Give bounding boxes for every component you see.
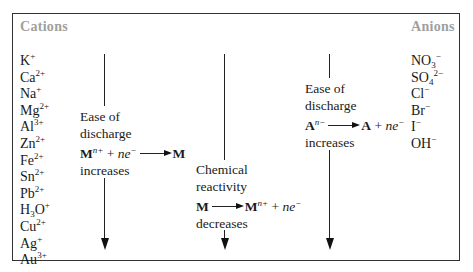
label-line: decreases: [196, 215, 301, 232]
label-line: increases: [80, 162, 185, 179]
label-line: reactivity: [196, 178, 301, 195]
eq-plus: +: [268, 199, 282, 214]
anion-discharge-label: Ease of discharge An−A + ne− increases: [305, 80, 404, 151]
label-line: Ease of: [305, 80, 404, 97]
label-line: discharge: [80, 125, 185, 142]
label-line: Ease of: [80, 108, 185, 125]
eq-species: M: [196, 199, 209, 214]
arrow-1-top-line: [104, 54, 105, 106]
reaction-arrow-icon: [140, 153, 170, 154]
eq-species: A: [361, 118, 371, 133]
reactivity-equation: MMn+ + ne−: [196, 195, 301, 215]
eq-species: M: [173, 146, 186, 161]
eq-charge: −: [398, 117, 404, 127]
reaction-arrow-icon: [328, 125, 358, 126]
cation-discharge-equation: Mn+ + ne−M: [80, 142, 185, 162]
arrow-down-icon: [326, 238, 334, 250]
eq-charge: −: [130, 145, 136, 155]
reaction-arrow-icon: [212, 206, 242, 207]
eq-charge: n−: [315, 117, 326, 127]
arrow-down-icon: [221, 238, 229, 250]
eq-plus: +: [371, 118, 385, 133]
label-line: discharge: [305, 97, 404, 114]
chemical-reactivity-label: Chemical reactivity MMn+ + ne− decreases: [196, 161, 301, 232]
eq-electrons: ne: [385, 118, 398, 133]
label-line: Chemical: [196, 161, 301, 178]
eq-electrons: ne: [118, 146, 131, 161]
arrow-3-top-line: [329, 54, 330, 78]
arrow-1-bottom-line: [104, 178, 105, 242]
eq-plus: +: [103, 146, 117, 161]
cations-header: Cations: [20, 19, 68, 35]
cation-ion: Au3+: [20, 247, 47, 268]
arrow-down-icon: [101, 238, 109, 250]
arrow-3-bottom-line: [329, 150, 330, 242]
cation-discharge-label: Ease of discharge Mn+ + ne−M increases: [80, 108, 185, 179]
label-line: increases: [305, 134, 404, 151]
eq-charge: n+: [258, 198, 269, 208]
eq-electrons: ne: [282, 199, 295, 214]
eq-species: A: [305, 118, 315, 133]
eq-species: M: [80, 146, 93, 161]
eq-species: M: [245, 199, 258, 214]
arrow-2-top-line: [224, 54, 225, 160]
anion-ion: OH−: [411, 131, 436, 152]
anions-header: Anions: [411, 19, 455, 35]
eq-charge: −: [295, 198, 301, 208]
eq-charge: n+: [93, 145, 104, 155]
anion-discharge-equation: An−A + ne−: [305, 114, 404, 134]
